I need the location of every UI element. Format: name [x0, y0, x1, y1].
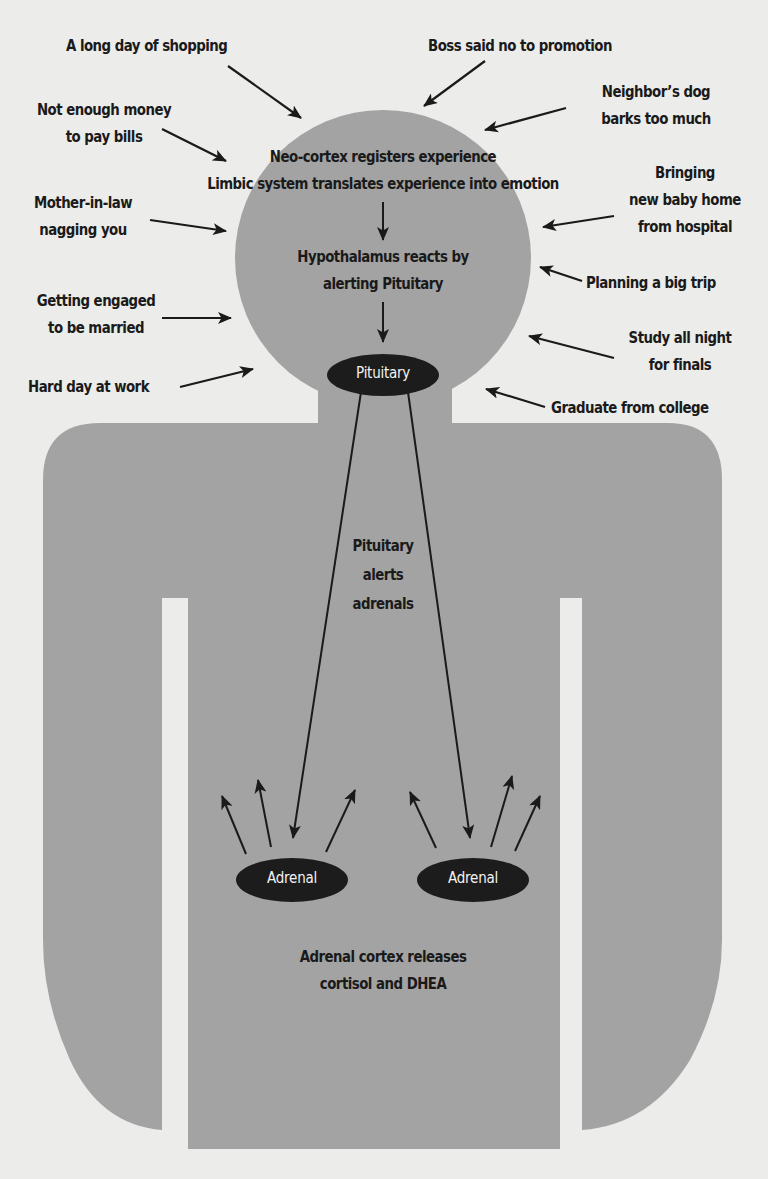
stressor-money: Not enough money to pay bills [30, 97, 178, 151]
stressor-hard-day-at-work: Hard day at work [28, 374, 149, 401]
neocortex-step: Neo-cortex registers experience [211, 144, 555, 171]
study-arrow [529, 336, 614, 358]
adrenal-right-label: Adrenal [419, 869, 527, 887]
stressor-study: Study all night for finals [620, 325, 740, 379]
mother-in-law-arrow [150, 220, 226, 231]
limbic-step: Limbic system translates experience into… [168, 171, 598, 198]
stressor-mother-in-law: Mother-in-law nagging you [27, 190, 139, 244]
boss-arrow [424, 61, 485, 106]
graduate-arrow [486, 389, 545, 407]
pituitary-label: Pituitary [329, 364, 437, 382]
stressor-dog: Neighbor’s dog barks too much [579, 79, 734, 133]
baby-arrow [543, 216, 614, 227]
right-arm-shape [582, 423, 722, 1130]
left-arm-shape [43, 423, 162, 1130]
hypothalamus-step: Hypothalamus reacts by alerting Pituitar… [254, 244, 512, 298]
dog-arrow [485, 108, 566, 130]
stressor-engaged: Getting engaged to be married [27, 288, 165, 342]
adrenal-release-step: Adrenal cortex releases cortisol and DHE… [254, 944, 512, 998]
work-arrow [180, 369, 253, 387]
stressor-shopping: A long day of shopping [66, 33, 227, 60]
shopping-arrow [228, 66, 301, 118]
pituitary-alert-step: Pituitary alerts adrenals [331, 532, 434, 619]
stressor-new-baby: Bringing new baby home from hospital [612, 160, 758, 241]
adrenal-left-label: Adrenal [238, 869, 346, 887]
stressor-boss: Boss said no to promotion [428, 33, 612, 60]
trip-arrow [540, 267, 582, 281]
stressor-big-trip: Planning a big trip [586, 270, 716, 297]
stressor-graduate: Graduate from college [551, 395, 709, 422]
